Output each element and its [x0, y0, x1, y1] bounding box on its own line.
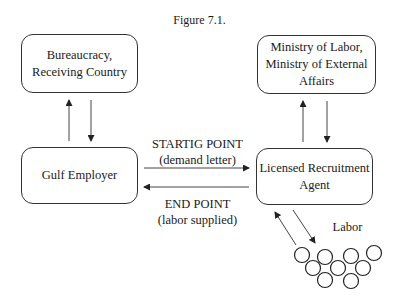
arrow-labor-to-agent: [275, 212, 296, 245]
labor-pool-icon: [295, 246, 382, 289]
diagram-arrows: [0, 0, 399, 304]
arrow-agent-to-labor: [293, 210, 315, 243]
